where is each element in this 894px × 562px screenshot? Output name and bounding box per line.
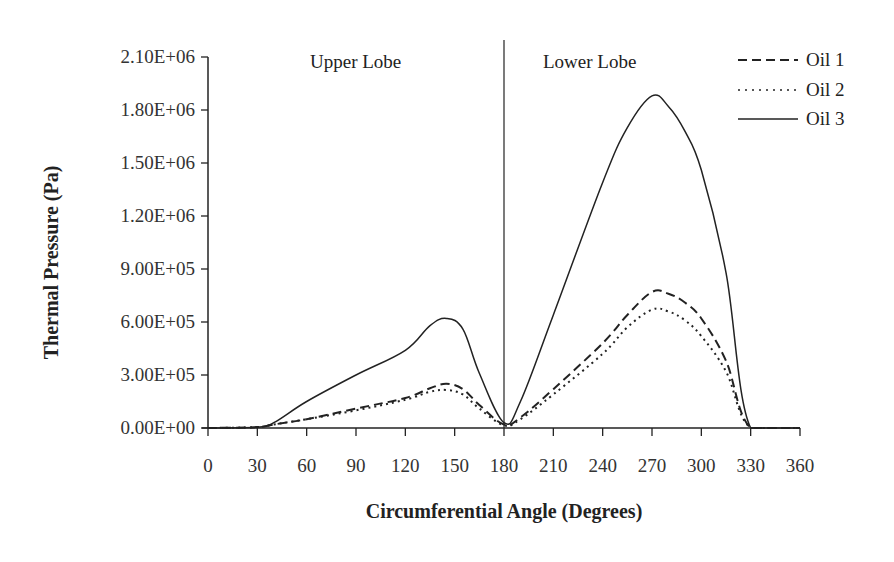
x-tick-label: 0: [203, 455, 213, 476]
x-tick-label: 210: [539, 455, 568, 476]
x-tick-label: 90: [347, 455, 366, 476]
x-axis-ticks: 0306090120150180210240270300330360: [203, 428, 814, 476]
y-tick-label: 3.00E+05: [120, 364, 195, 385]
y-axis-title: Thermal Pressure (Pa): [40, 166, 63, 360]
chart-canvas: 0.00E+003.00E+056.00E+059.00E+051.20E+06…: [0, 0, 894, 562]
x-tick-label: 150: [440, 455, 469, 476]
x-axis-title: Circumferential Angle (Degrees): [366, 500, 643, 523]
legend-label-oil-1: Oil 1: [806, 49, 845, 70]
y-axis-ticks: 0.00E+003.00E+056.00E+059.00E+051.20E+06…: [120, 46, 208, 438]
x-tick-label: 60: [297, 455, 316, 476]
legend-label-oil-3: Oil 3: [806, 108, 845, 129]
y-tick-label: 1.20E+06: [120, 205, 195, 226]
x-tick-label: 180: [490, 455, 519, 476]
y-tick-label: 0.00E+00: [120, 417, 195, 438]
legend-label-oil-2: Oil 2: [806, 79, 845, 100]
x-tick-label: 300: [687, 455, 716, 476]
y-tick-label: 9.00E+05: [120, 258, 195, 279]
x-tick-label: 270: [638, 455, 667, 476]
legend: Oil 1 Oil 2 Oil 3: [738, 49, 845, 129]
y-tick-label: 1.80E+06: [120, 99, 195, 120]
x-tick-label: 330: [736, 455, 765, 476]
x-tick-label: 120: [391, 455, 420, 476]
y-tick-label: 1.50E+06: [120, 152, 195, 173]
y-tick-label: 2.10E+06: [120, 46, 195, 67]
x-tick-label: 30: [248, 455, 267, 476]
x-tick-label: 240: [588, 455, 617, 476]
upper-lobe-label: Upper Lobe: [310, 51, 401, 72]
lower-lobe-label: Lower Lobe: [543, 51, 636, 72]
y-tick-label: 6.00E+05: [120, 311, 195, 332]
x-tick-label: 360: [786, 455, 815, 476]
